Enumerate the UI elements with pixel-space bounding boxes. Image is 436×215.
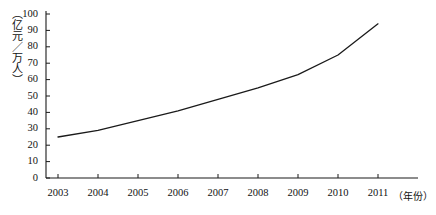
axis-ticks [46, 14, 378, 178]
data-series-line [58, 24, 378, 137]
line-chart: （亿元／万人） （年份） 0102030405060708090100 2003… [0, 0, 436, 215]
plot-area [0, 0, 436, 215]
